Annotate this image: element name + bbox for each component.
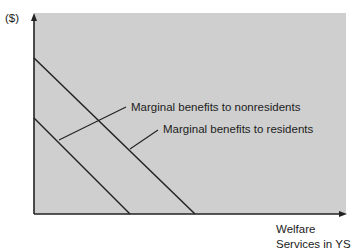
x-axis-label-line2: Services in YS	[276, 237, 351, 250]
welfare-benefits-diagram: ($) Marginal benefits to nonresidents Ma…	[0, 0, 364, 250]
x-axis-label: Welfare Services in YS	[276, 222, 351, 250]
x-axis-label-line1: Welfare	[276, 222, 351, 237]
label-residents: Marginal benefits to residents	[163, 123, 313, 136]
y-axis-label: ($)	[5, 12, 19, 25]
label-nonresidents: Marginal benefits to nonresidents	[131, 101, 300, 114]
